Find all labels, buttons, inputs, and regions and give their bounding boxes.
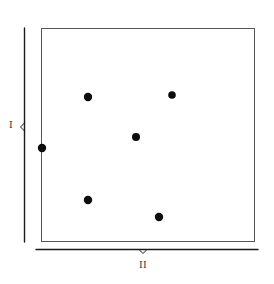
figure-canvas xyxy=(0,0,274,284)
horizontal-brace xyxy=(36,250,258,254)
data-point-6 xyxy=(155,213,163,221)
data-point-4 xyxy=(38,144,46,152)
horizontal-brace-label: II xyxy=(128,259,158,270)
data-point-1 xyxy=(84,93,92,101)
data-point-3 xyxy=(132,133,140,141)
data-point-5 xyxy=(84,196,92,204)
data-point-2 xyxy=(168,91,176,99)
vertical-brace xyxy=(21,28,25,242)
plot-region-rectangle xyxy=(42,29,255,242)
vertical-brace-label: I xyxy=(4,119,18,130)
figure-container: I II xyxy=(0,0,274,284)
